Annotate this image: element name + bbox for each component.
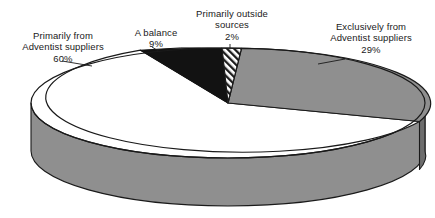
- slice-value-primarily-from: 60%: [2, 53, 124, 64]
- slice-label-primarily-from-line1: Primarily from: [2, 30, 124, 41]
- slice-label-primarily-from: Primarily from Adventist suppliers 60%: [2, 30, 124, 64]
- slice-value-exclusively-from: 29%: [308, 44, 434, 55]
- slice-label-outside-sources-line1: Primarily outside: [182, 8, 282, 19]
- slice-label-primarily-from-line2: Adventist suppliers: [2, 41, 124, 52]
- slice-label-exclusively-from-line1: Exclusively from: [308, 21, 434, 32]
- slice-value-outside-sources: 2%: [182, 31, 282, 42]
- slice-label-outside-sources-line2: sources: [182, 19, 282, 30]
- slice-label-exclusively-from-line2: Adventist suppliers: [308, 32, 434, 43]
- slice-label-exclusively-from: Exclusively from Adventist suppliers 29%: [308, 21, 434, 55]
- slice-label-outside-sources: Primarily outside sources 2%: [182, 8, 282, 42]
- pie-chart-figure: Primarily from Adventist suppliers 60% A…: [0, 0, 435, 218]
